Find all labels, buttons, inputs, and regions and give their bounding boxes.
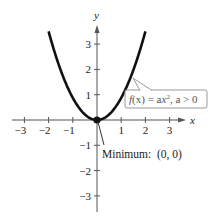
x-tick-label: 2 bbox=[143, 124, 149, 136]
x-tick-label: 1 bbox=[118, 124, 124, 136]
minimum-label: Minimum: (0, 0) bbox=[102, 148, 182, 161]
y-tick-label: −1 bbox=[79, 139, 91, 151]
minimum-point bbox=[93, 116, 100, 123]
x-tick-labels: −3−2−1123 bbox=[15, 124, 173, 136]
y-tick-label: −3 bbox=[79, 190, 91, 202]
y-tick-label: 3 bbox=[86, 38, 92, 50]
function-callout-text: f(x) = ax2, a > 0 bbox=[129, 93, 198, 106]
function-callout: f(x) = ax2, a > 0 bbox=[125, 78, 207, 108]
y-tick-label: 1 bbox=[86, 89, 92, 101]
y-axis-label: y bbox=[93, 9, 99, 21]
x-tick-label: −3 bbox=[15, 124, 27, 136]
y-axis-arrow-icon bbox=[95, 25, 100, 33]
y-tick-label: 2 bbox=[86, 63, 92, 75]
y-tick-label: −2 bbox=[79, 165, 91, 177]
parabola-chart: x y −3−2−1123 −3−2−1123 Minimum: (0, 0) … bbox=[0, 0, 215, 218]
x-axis-arrow-icon bbox=[178, 118, 186, 123]
x-axis-label: x bbox=[189, 114, 195, 126]
minimum-leader-line bbox=[98, 122, 104, 145]
x-tick-label: −1 bbox=[63, 124, 75, 136]
x-tick-label: −2 bbox=[39, 124, 51, 136]
x-tick-label: 3 bbox=[167, 124, 173, 136]
